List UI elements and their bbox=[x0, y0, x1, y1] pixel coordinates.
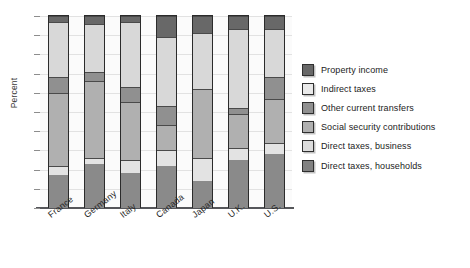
bar-segment bbox=[193, 89, 212, 158]
legend-label: Other current transfers bbox=[321, 103, 414, 113]
stacked-bar-us[interactable] bbox=[264, 15, 285, 208]
bar-segment bbox=[157, 106, 176, 125]
y-axis-tick bbox=[34, 93, 40, 94]
legend-swatch-icon bbox=[302, 160, 314, 172]
bar-segment bbox=[265, 154, 284, 208]
bar-segment bbox=[265, 99, 284, 143]
stacked-bar-france[interactable] bbox=[48, 15, 69, 208]
y-axis-tick bbox=[34, 112, 40, 113]
legend-label: Direct taxes, households bbox=[321, 161, 422, 171]
bar-segment bbox=[265, 16, 284, 29]
y-axis-tick bbox=[34, 74, 40, 75]
bar-segment bbox=[85, 16, 104, 24]
bar-segment bbox=[49, 93, 68, 166]
bar-segment bbox=[157, 125, 176, 150]
bar-segment bbox=[157, 16, 176, 37]
bar-segment bbox=[229, 16, 248, 29]
y-axis-tick bbox=[34, 208, 40, 209]
bar-segment bbox=[229, 160, 248, 208]
bar-segment bbox=[193, 158, 212, 181]
y-axis-tick bbox=[34, 35, 40, 36]
bar-segment bbox=[157, 150, 176, 165]
legend-swatch-icon bbox=[302, 121, 314, 133]
bar-segment bbox=[121, 102, 140, 160]
bar-segment bbox=[121, 22, 140, 87]
legend-swatch-icon bbox=[302, 140, 314, 152]
y-axis-tick bbox=[34, 131, 40, 132]
legend-label: Indirect taxes bbox=[321, 84, 376, 94]
bar-segment bbox=[193, 33, 212, 89]
bar-segment bbox=[229, 29, 248, 108]
stacked-bar-japan[interactable] bbox=[192, 15, 213, 208]
bar-segment bbox=[265, 143, 284, 155]
bar-segment bbox=[49, 166, 68, 176]
legend-label: Direct taxes, business bbox=[321, 141, 411, 151]
bar-segment bbox=[229, 148, 248, 160]
y-axis-tick bbox=[34, 150, 40, 151]
legend-swatch-icon bbox=[302, 64, 314, 76]
bar-segment bbox=[121, 87, 140, 102]
y-axis-label: Percent bbox=[9, 63, 19, 123]
bar-segment bbox=[49, 77, 68, 92]
stacked-bar-uk[interactable] bbox=[228, 15, 249, 208]
bar-segment bbox=[85, 24, 104, 72]
chart-legend: Property incomeIndirect taxesOther curre… bbox=[302, 60, 468, 175]
stacked-bar-canada[interactable] bbox=[156, 15, 177, 208]
y-axis-tick bbox=[34, 54, 40, 55]
legend-swatch-icon bbox=[302, 83, 314, 95]
legend-item[interactable]: Social security contributions bbox=[302, 118, 468, 137]
y-axis-tick bbox=[34, 16, 40, 17]
legend-label: Social security contributions bbox=[321, 122, 435, 132]
bar-segment bbox=[265, 29, 284, 77]
legend-item[interactable]: Property income bbox=[302, 60, 468, 79]
bar-segment bbox=[193, 16, 212, 33]
bar-segment bbox=[265, 77, 284, 98]
chart-figure: Percent FranceGermanyItalyCanadaJapanU.K… bbox=[0, 0, 470, 268]
legend-item[interactable]: Indirect taxes bbox=[302, 79, 468, 98]
y-axis-tick bbox=[34, 189, 40, 190]
legend-swatch-icon bbox=[302, 102, 314, 114]
stacked-bar-italy[interactable] bbox=[120, 15, 141, 208]
bar-segment bbox=[49, 22, 68, 78]
legend-item[interactable]: Other current transfers bbox=[302, 98, 468, 117]
bar-segment bbox=[121, 160, 140, 173]
legend-label: Property income bbox=[321, 65, 388, 75]
bar-segment bbox=[85, 81, 104, 158]
legend-item[interactable]: Direct taxes, business bbox=[302, 137, 468, 156]
stacked-bar-germany[interactable] bbox=[84, 15, 105, 208]
bar-segment bbox=[85, 72, 104, 82]
bar-segment bbox=[157, 37, 176, 106]
legend-item[interactable]: Direct taxes, households bbox=[302, 156, 468, 175]
y-axis-tick bbox=[34, 170, 40, 171]
bar-segment bbox=[229, 114, 248, 149]
